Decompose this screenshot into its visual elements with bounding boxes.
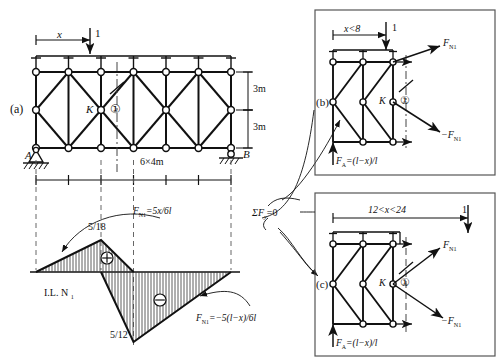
member-marker-a: ① <box>110 103 121 115</box>
equilibrium-rest: =0 <box>267 207 278 218</box>
il-name-text: I.L. N <box>44 287 68 298</box>
panel-c-node-k: K <box>379 278 386 288</box>
il-name-label: I.L. N 1 <box>44 288 74 300</box>
support-b-label: B <box>243 149 250 160</box>
il-negative-peak-label: 5/12 <box>110 330 128 340</box>
il-name-sub: 1 <box>71 293 74 300</box>
equilibrium-note: ΣFy=0 <box>252 208 277 220</box>
node-k-label-a: K <box>86 104 93 115</box>
main-truss-group <box>23 28 252 185</box>
span-label: 6×4m <box>140 157 163 167</box>
il-positive-peak-value: 5/18 <box>88 221 106 232</box>
figure-vector <box>0 0 499 363</box>
il-formula-pos-rest: =5x/6l <box>146 206 171 216</box>
panel-b-reaction-rest: =(l−x)/l <box>346 156 377 166</box>
il-formula-negative: FN1=−5(l−x)/6l <box>196 314 256 326</box>
panel-link-leaders <box>262 110 316 274</box>
equilibrium-leaders <box>264 120 340 276</box>
support-a-label: A <box>25 150 32 161</box>
panel-b-force-negative: −FN1 <box>441 130 461 142</box>
panel-c-unit-load-label: 1 <box>462 205 467 215</box>
panel-c-reaction: FA=(l−x)/l <box>336 339 377 351</box>
il-formula-neg-rest: =−5(l−x)/6l <box>209 313 256 323</box>
unit-load-label-a: 1 <box>95 28 101 39</box>
panel-c-group <box>315 193 495 356</box>
panel-b-node-k: K <box>379 96 386 106</box>
il-positive-peak-label: 5/18 <box>88 222 106 232</box>
height-upper-label: 3m <box>253 84 266 94</box>
panel-b-member-marker: ① <box>400 95 410 106</box>
panel-b-unit-load-label: 1 <box>392 23 397 33</box>
il-formula-pos-sub: N1 <box>139 212 146 218</box>
panel-b-reaction: FA=(l−x)/l <box>336 157 377 169</box>
panel-c-reaction-rest: =(l−x)/l <box>346 338 377 348</box>
panel-c-force-pos-sub: N1 <box>449 245 457 252</box>
panel-b-force-neg-symbol: −F <box>441 129 454 140</box>
panel-b-range-label: x<8 <box>344 24 360 34</box>
panel-label-a: (a) <box>10 103 23 115</box>
panel-b-group <box>315 10 495 175</box>
il-formula-positive: FN1=5x/6l <box>133 207 171 219</box>
panel-c-force-positive: FN1 <box>443 240 457 252</box>
panel-c-member-marker: ① <box>400 277 410 288</box>
equilibrium-sigma: ΣF <box>252 207 264 218</box>
il-negative-peak-value: 5/12 <box>110 329 128 340</box>
panel-c-force-negative: −FN1 <box>441 316 461 328</box>
panel-b-force-pos-sub: N1 <box>449 43 457 50</box>
panel-b-force-neg-sub: N1 <box>454 135 462 142</box>
dimension-x-label: x <box>57 29 62 40</box>
figure-root: (a) x 1 K ① A B 3m 3m 6×4m 5/18 5/12 I.L… <box>0 0 499 363</box>
panel-c-force-neg-symbol: −F <box>441 315 454 326</box>
panel-c-range-label: 12<x<24 <box>368 205 406 215</box>
panel-b-force-positive: FN1 <box>443 38 457 50</box>
panel-c-force-neg-sub: N1 <box>454 321 462 328</box>
il-formula-neg-sub: N1 <box>202 319 209 325</box>
height-lower-label: 3m <box>253 122 266 132</box>
panel-label-b: (b) <box>316 97 329 108</box>
panel-label-c: (c) <box>316 279 328 290</box>
